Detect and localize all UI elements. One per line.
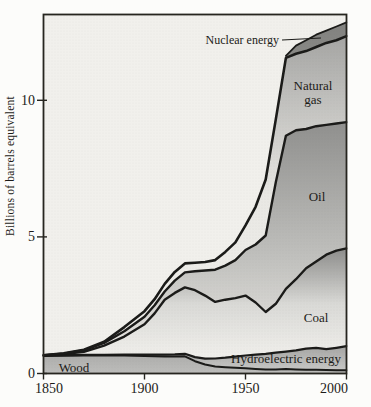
y-tick-label-5: 5: [28, 229, 35, 244]
label-coal: Coal: [304, 310, 329, 325]
x-tick-label-2000: 2000: [320, 381, 348, 396]
y-axis-title: Billions of barrels equivalent: [4, 95, 17, 235]
energy-consumption-figure: 1850190019502000 0510 WoodHydroelectric …: [0, 0, 371, 407]
x-tick-label-1850: 1850: [35, 381, 63, 396]
stacked-area-chart: 1850190019502000 0510 WoodHydroelectric …: [0, 0, 371, 407]
label-oil: Oil: [309, 189, 326, 204]
halftone-texture: [44, 15, 347, 374]
x-axis-ticks: 1850190019502000: [35, 374, 348, 396]
y-tick-label-0: 0: [28, 366, 35, 381]
nuclear-energy-callout-label: Nuclear energy: [206, 33, 279, 47]
label-wood: Wood: [59, 360, 90, 375]
x-tick-label-1950: 1950: [232, 381, 260, 396]
y-tick-label-10: 10: [21, 93, 35, 108]
label-hydroelectric: Hydroelectric energy: [231, 351, 341, 366]
x-tick-label-1900: 1900: [131, 381, 159, 396]
